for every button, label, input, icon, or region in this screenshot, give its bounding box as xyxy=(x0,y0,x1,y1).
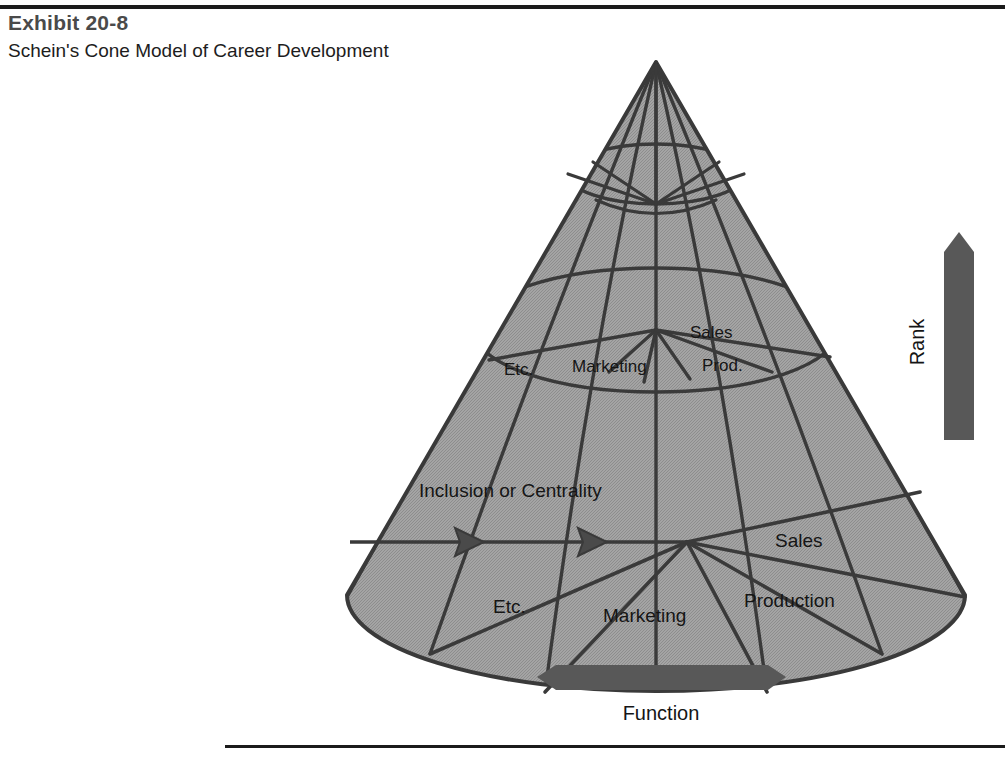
base-label-sales: Sales xyxy=(775,530,823,551)
exhibit-page: Exhibit 20-8 Schein's Cone Model of Care… xyxy=(0,0,1005,763)
inclusion-centrality-label: Inclusion or Centrality xyxy=(419,480,602,501)
rank-axis: Rank xyxy=(906,232,974,440)
base-label-production: Production xyxy=(744,590,835,611)
schein-cone-diagram: Etc. Marketing Prod. Sales Inclusi xyxy=(0,52,1005,722)
figure-container: Etc. Marketing Prod. Sales Inclusi xyxy=(0,52,1005,722)
mid-label-sales: Sales xyxy=(690,323,733,342)
rank-arrow-icon xyxy=(944,232,974,440)
function-arrow-icon xyxy=(537,665,786,690)
function-axis: Function xyxy=(537,665,786,722)
rank-axis-label: Rank xyxy=(906,318,928,366)
mid-label-prod: Prod. xyxy=(702,356,743,375)
base-label-marketing: Marketing xyxy=(603,605,686,626)
mid-label-marketing: Marketing xyxy=(572,357,647,376)
mid-label-etc: Etc. xyxy=(504,360,533,379)
bottom-divider-rule xyxy=(225,745,1005,748)
base-label-etc: Etc. xyxy=(493,596,526,617)
function-axis-label: Function xyxy=(623,702,700,722)
page-title: Exhibit 20-8 xyxy=(8,11,128,35)
top-divider-rule xyxy=(0,5,1005,9)
